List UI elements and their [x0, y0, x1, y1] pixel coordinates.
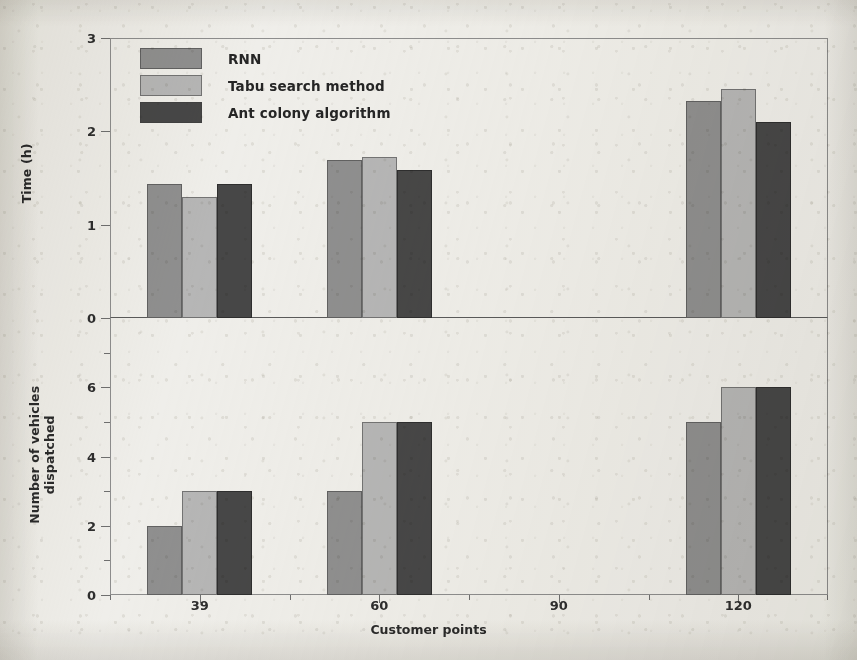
y-tick-vehicles-6	[101, 387, 110, 388]
bar-vehicles-39-series0	[147, 526, 182, 595]
y-tick-label-vehicles-0: 0	[62, 588, 96, 603]
y-tick-label-time-1: 1	[62, 217, 96, 232]
x-tick-label-60: 60	[370, 598, 388, 613]
y-minor-tick-vehicles-1	[104, 560, 110, 561]
bar-time-60-series2	[397, 170, 432, 318]
legend-label-tabu-search-method: Tabu search method	[228, 78, 385, 94]
legend-item-ant-colony-algorithm: Ant colony algorithm	[140, 99, 391, 126]
bar-time-120-series1	[721, 89, 756, 318]
y-tick-label-time-0: 0	[62, 311, 96, 326]
y-tick-vehicles-0	[101, 595, 110, 596]
legend-swatch-ant-colony-algorithm	[140, 102, 202, 123]
legend-item-tabu-search-method: Tabu search method	[140, 72, 391, 99]
bar-time-60-series1	[362, 157, 397, 318]
figure: Time (h) Number of vehicles dispatched C…	[0, 0, 857, 660]
legend-swatch-rnn	[140, 48, 202, 69]
bar-vehicles-120-series1	[721, 387, 756, 595]
bar-time-60-series0	[327, 160, 362, 318]
x-minor-tick-2	[469, 595, 470, 600]
y-tick-vehicles-4	[101, 457, 110, 458]
y-minor-tick-vehicles-8	[104, 318, 110, 319]
bar-vehicles-60-series1	[362, 422, 397, 595]
legend: RNN Tabu search method Ant colony algori…	[140, 45, 391, 126]
x-axis-label: Customer points	[0, 622, 857, 637]
bar-vehicles-60-series2	[397, 422, 432, 595]
legend-label-ant-colony-algorithm: Ant colony algorithm	[228, 105, 391, 121]
x-minor-tick-4	[827, 595, 828, 600]
bar-time-39-series0	[147, 184, 182, 318]
bar-time-120-series0	[686, 101, 721, 318]
legend-label-rnn: RNN	[228, 51, 261, 67]
y-tick-time-2	[101, 131, 110, 132]
y-tick-label-time-2: 2	[62, 124, 96, 139]
y-minor-tick-vehicles-7	[104, 353, 110, 354]
y-tick-time-1	[101, 225, 110, 226]
y-tick-label-vehicles-4: 4	[62, 449, 96, 464]
x-tick-label-90: 90	[550, 598, 568, 613]
x-minor-tick-1	[290, 595, 291, 600]
y-minor-tick-vehicles-5	[104, 422, 110, 423]
bottom-panel-y-axis-label: Number of vehicles dispatched	[28, 375, 58, 535]
bar-vehicles-39-series2	[217, 491, 252, 595]
y-tick-label-vehicles-6: 6	[62, 380, 96, 395]
x-tick-label-120: 120	[725, 598, 752, 613]
y-minor-tick-vehicles-3	[104, 491, 110, 492]
x-tick-label-39: 39	[191, 598, 209, 613]
bar-vehicles-39-series1	[182, 491, 217, 595]
legend-swatch-tabu-search-method	[140, 75, 202, 96]
bar-vehicles-120-series2	[756, 387, 791, 595]
x-minor-tick-0	[110, 595, 111, 600]
bar-time-39-series2	[217, 184, 252, 318]
legend-item-rnn: RNN	[140, 45, 391, 72]
top-panel-y-axis-label: Time (h)	[20, 118, 35, 228]
bar-vehicles-60-series0	[327, 491, 362, 595]
y-tick-label-time-3: 3	[62, 31, 96, 46]
y-tick-label-vehicles-2: 2	[62, 518, 96, 533]
bar-time-120-series2	[756, 122, 791, 318]
y-tick-vehicles-2	[101, 526, 110, 527]
y-tick-time-3	[101, 38, 110, 39]
bar-time-39-series1	[182, 197, 217, 318]
bar-vehicles-120-series0	[686, 422, 721, 595]
x-minor-tick-3	[649, 595, 650, 600]
